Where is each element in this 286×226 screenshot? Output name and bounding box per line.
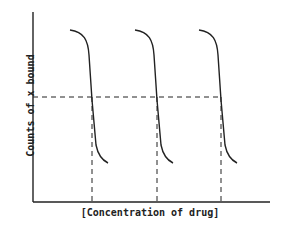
x-axis-label: [Concentration of drug] <box>60 207 240 218</box>
y-axis-label: Counts of x bound <box>25 36 36 176</box>
diagram-canvas <box>0 0 286 226</box>
